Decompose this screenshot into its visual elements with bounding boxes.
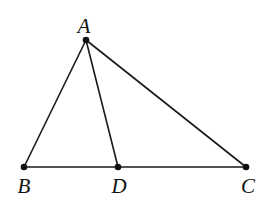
segment-ad [86,40,118,167]
point-c [243,164,250,171]
label-a: A [76,14,91,38]
label-d: D [110,174,126,198]
segment-ac [86,40,246,167]
label-c: C [241,174,256,198]
point-d [115,164,122,171]
segment-ab [24,40,86,167]
label-b: B [18,174,31,198]
point-b [21,164,28,171]
triangle-diagram: A B D C [0,0,273,210]
